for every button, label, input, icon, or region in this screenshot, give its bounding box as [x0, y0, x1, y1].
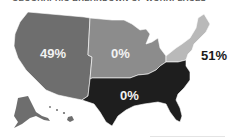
label-south: 0% [120, 88, 139, 103]
region-alaska [14, 96, 50, 128]
region-hawaii-4 [67, 116, 74, 122]
label-northeast: 51% [201, 48, 227, 63]
label-midwest: 0% [111, 46, 130, 61]
region-hawaii-3 [63, 112, 65, 114]
region-hawaii-2 [56, 109, 58, 111]
divider [150, 136, 225, 137]
region-hawaii-1 [49, 106, 51, 108]
label-west: 49% [40, 46, 66, 61]
us-region-map [0, 0, 228, 139]
